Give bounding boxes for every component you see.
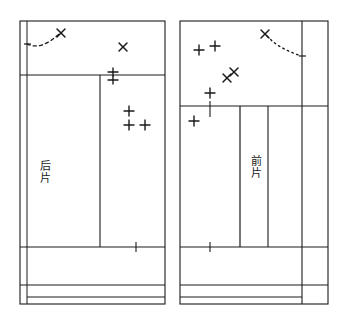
front-panel-label: 前片	[249, 155, 261, 179]
pattern-layout-diagram: 后片 前片	[0, 0, 347, 321]
front-panel-cross-mark	[261, 30, 269, 38]
back-panel-cross-mark	[57, 29, 65, 37]
back-panel-dashed-curve	[27, 34, 59, 46]
diagram-canvas	[0, 0, 347, 321]
back-panel-plus-mark	[124, 106, 134, 116]
back-panel-plus-mark	[108, 76, 118, 84]
front-panel-plus-mark	[194, 45, 204, 55]
front-panel-plus-mark	[210, 41, 220, 51]
front-panel-plus-mark	[205, 88, 215, 98]
back-panel-label: 后片	[38, 160, 50, 184]
back-panel-cross-mark	[119, 43, 127, 51]
front-panel-plus-mark	[189, 116, 199, 126]
back-panel-plus-mark	[124, 120, 134, 130]
front-panel-dotted-curve	[267, 36, 301, 56]
front-panel-cross-mark	[223, 74, 231, 82]
back-panel-plus-mark	[140, 120, 150, 130]
